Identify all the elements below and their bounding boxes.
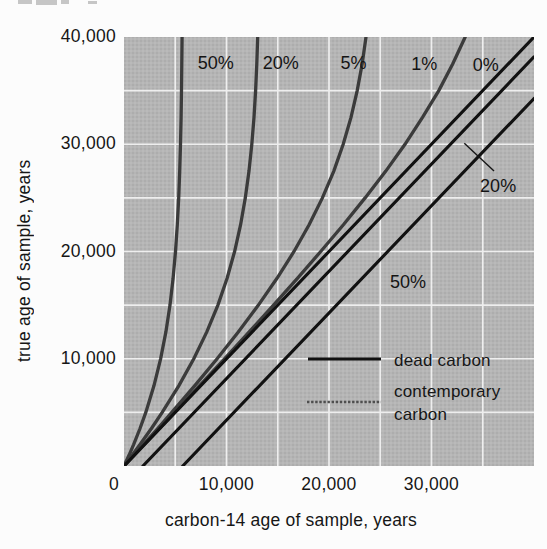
y-axis-title: true age of sample, years bbox=[14, 126, 35, 396]
curve-label-reference-0: 0% bbox=[473, 55, 499, 75]
y-tick-label-0: 10,000 bbox=[61, 348, 116, 368]
curve-label-contemporary-1: 1% bbox=[411, 54, 437, 74]
legend-label-0-0: dead carbon bbox=[394, 351, 491, 370]
legend-label-1-0: contemporary bbox=[394, 382, 501, 401]
x-tick-label-2: 20,000 bbox=[301, 474, 356, 494]
legend-label-1-1: carbon bbox=[394, 405, 447, 424]
y-tick-label-1: 20,000 bbox=[61, 241, 116, 261]
scanned-figure-page: 50%20%5%1%0%20%50%010,00020,00030,00010,… bbox=[0, 0, 547, 549]
curve-label-contemporary-5: 5% bbox=[341, 53, 367, 73]
y-tick-label-2: 30,000 bbox=[61, 133, 116, 153]
curve-label-dead-20: 20% bbox=[480, 176, 516, 196]
x-tick-label-1: 10,000 bbox=[199, 474, 254, 494]
x-axis-title: carbon-14 age of sample, years bbox=[0, 510, 547, 531]
y-tick-label-3: 40,000 bbox=[61, 26, 116, 46]
x-tick-label-3: 30,000 bbox=[404, 474, 459, 494]
carbon14-calibration-chart: 50%20%5%1%0%20%50%010,00020,00030,00010,… bbox=[0, 0, 547, 549]
curve-label-contemporary-20: 20% bbox=[263, 53, 299, 73]
x-tick-label-0: 0 bbox=[109, 474, 119, 494]
curve-label-dead-50: 50% bbox=[390, 272, 426, 292]
curve-label-contemporary-50: 50% bbox=[198, 53, 234, 73]
